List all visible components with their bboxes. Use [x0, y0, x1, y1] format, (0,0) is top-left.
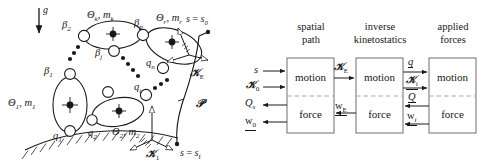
joint-label-q1: q1	[53, 131, 62, 144]
header-spatial-path-line1: spatial	[280, 21, 342, 34]
header-inverse-kinetostatics-line2: kinetostatics	[340, 34, 420, 47]
joint-label-qn: qn	[146, 58, 155, 71]
signal-label-w0: w0	[245, 115, 256, 131]
header-applied-forces-line1: applied	[422, 21, 484, 34]
center-of-mass-icon-2	[112, 104, 126, 118]
signal-label-wi: wi	[407, 110, 417, 126]
signal-label-wE: wE	[335, 100, 347, 116]
cell-applied-forces-motion: motion	[429, 71, 476, 83]
path-end-label: s = sf	[180, 148, 201, 161]
signal-label-Ki: 𝒦i	[406, 74, 418, 90]
block-box-inverse-kinetostatics	[356, 58, 403, 133]
joint-qi	[140, 89, 151, 100]
header-applied-forces: applied forces	[422, 21, 484, 47]
joint-q2	[87, 115, 97, 125]
cell-applied-forces-force: force	[429, 108, 476, 120]
center-of-mass-icon-1	[62, 97, 78, 113]
joint-upper-b2	[103, 87, 114, 98]
path-curve-label: 𝒫	[196, 98, 204, 109]
header-applied-forces-line2: forces	[422, 34, 484, 47]
link-body-1	[53, 77, 87, 133]
joint-label-q2: q2	[88, 128, 97, 141]
header-inverse-kinetostatics: inverse kinetostatics	[340, 21, 420, 47]
frame-label-KE: 𝒦E	[190, 68, 204, 81]
signal-label-K0: 𝒦0	[246, 80, 259, 93]
block-diagram-graphic	[263, 58, 476, 133]
gravity-label: g	[43, 5, 48, 15]
joint-beta1	[65, 69, 76, 80]
body-label-theta2-m2: Θ2, m2	[112, 127, 140, 140]
path-start-label: s = s0	[186, 14, 208, 27]
spatial-path-curve	[175, 30, 210, 146]
joint-label-betaj: βj	[95, 48, 102, 61]
center-of-mass-icon-r	[165, 35, 179, 49]
cell-spatial-path-motion: motion	[287, 71, 334, 83]
header-inverse-kinetostatics-line1: inverse	[340, 21, 420, 34]
signal-label-s: s	[254, 65, 258, 76]
joint-label-beta2: β2	[62, 20, 71, 33]
body-label-thetak-mk: Θk, mk	[87, 10, 114, 23]
figure-root: g Θ1, m1 Θ2, m2 Θk, mk Θr, mr β1 β2 βj β…	[0, 0, 491, 165]
cell-inverse-kinetostatics-motion: motion	[356, 71, 403, 83]
signal-label-Qs: Qs	[245, 98, 255, 111]
joint-label-qi: qi	[134, 82, 141, 95]
header-spatial-path-line2: path	[280, 34, 342, 47]
block-box-applied-forces	[429, 58, 476, 133]
signal-label-KE: 𝒦E	[334, 62, 348, 75]
signal-label-Q: Q	[408, 91, 416, 103]
center-of-mass-icon-k	[106, 27, 120, 41]
joint-beta2	[78, 30, 89, 41]
body-label-thetar-mr: Θr, mr	[156, 13, 182, 26]
joint-q1	[65, 126, 76, 137]
frame-label-K1: 𝒦1	[146, 149, 159, 162]
signal-label-q: q	[408, 56, 413, 68]
joint-qn	[157, 62, 168, 73]
path-end-point	[175, 142, 179, 146]
cell-spatial-path-force: force	[287, 108, 334, 120]
signal-arrows-inputs	[263, 71, 287, 122]
block-box-spatial-path	[287, 58, 334, 133]
joint-betaj	[109, 46, 120, 57]
header-spatial-path: spatial path	[280, 21, 342, 47]
body-label-theta1-m1: Θ1, m1	[8, 98, 36, 111]
joint-label-beta1: β1	[44, 66, 53, 79]
cell-inverse-kinetostatics-force: force	[356, 108, 403, 120]
joint-label-betap: βp	[134, 18, 143, 31]
